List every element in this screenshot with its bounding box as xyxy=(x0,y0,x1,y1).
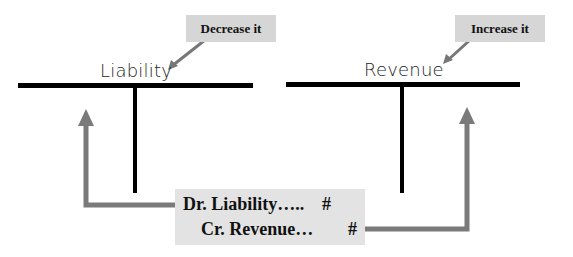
credit-arrow xyxy=(362,107,475,229)
debit-line-label: Dr. Liability….. xyxy=(183,194,304,215)
journal-entry-box: Dr. Liability….. # Cr. Revenue… # xyxy=(175,189,365,245)
debit-line-amount: # xyxy=(322,194,331,215)
callout-decrease: Decrease it xyxy=(186,15,276,42)
account-title-liability: Liability xyxy=(100,60,172,81)
decrease-pointer xyxy=(172,40,205,66)
t-account-revenue xyxy=(286,82,520,193)
t-account-liability xyxy=(18,83,253,193)
increase-pointer xyxy=(448,40,470,60)
debit-arrow xyxy=(78,109,177,205)
callout-increase-text: Increase it xyxy=(471,21,529,37)
credit-line-label: Cr. Revenue… xyxy=(201,219,313,240)
account-title-revenue: Revenue xyxy=(364,59,444,80)
callout-increase: Increase it xyxy=(455,15,545,42)
credit-line-amount: # xyxy=(348,219,357,240)
callout-decrease-text: Decrease it xyxy=(201,21,262,37)
